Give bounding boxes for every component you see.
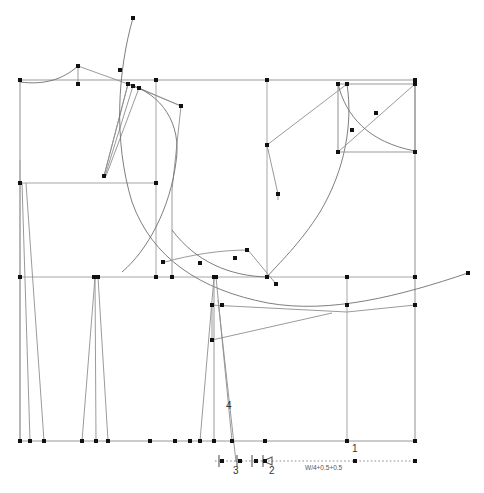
waist-dart-center — [200, 277, 236, 462]
label-1: 1 — [352, 443, 358, 454]
pattern-point — [96, 275, 100, 279]
pattern-point — [345, 303, 349, 307]
pattern-point — [265, 143, 269, 147]
pattern-point — [413, 303, 417, 307]
pattern-point — [80, 439, 84, 443]
label-2: 2 — [269, 465, 275, 476]
pattern-point — [413, 439, 417, 443]
pattern-point — [345, 439, 349, 443]
pattern-point — [263, 459, 267, 463]
pattern-point — [126, 82, 130, 86]
pattern-point — [76, 64, 80, 68]
pattern-point — [233, 256, 237, 260]
pattern-point — [210, 338, 214, 342]
pattern-point — [28, 439, 32, 443]
shoulder-line-right — [267, 84, 347, 145]
waist-dart-left-2 — [82, 277, 108, 441]
pattern-point — [336, 82, 340, 86]
pattern-point — [170, 275, 174, 279]
pattern-point — [154, 275, 158, 279]
pattern-point — [345, 82, 349, 86]
frame-group — [20, 80, 415, 441]
pattern-point — [336, 150, 340, 154]
pattern-point — [118, 68, 122, 72]
pattern-point — [198, 261, 202, 265]
pattern-point — [413, 150, 417, 154]
pattern-point — [353, 459, 357, 463]
pattern-point — [198, 439, 202, 443]
pattern-point — [154, 78, 158, 82]
pattern-point — [173, 439, 177, 443]
pattern-draft-svg: 1 2 3 4 W/4+0.5+0.5 — [0, 0, 484, 493]
pattern-point — [350, 128, 354, 132]
armhole-curve-back — [267, 84, 349, 277]
pattern-point — [413, 275, 417, 279]
shoulder-dart-leg-c — [106, 88, 139, 176]
sleeve-box-diagonal — [338, 84, 415, 152]
pattern-point — [230, 439, 234, 443]
neck-right-line — [267, 145, 278, 194]
pattern-point — [76, 82, 80, 86]
pattern-point — [210, 303, 214, 307]
pattern-point — [212, 439, 216, 443]
pattern-point — [92, 275, 96, 279]
pattern-point — [18, 439, 22, 443]
inner-detail-line — [248, 250, 276, 284]
dimension-label: W/4+0.5+0.5 — [305, 464, 343, 471]
pattern-point — [413, 459, 417, 463]
pattern-point — [102, 174, 106, 178]
sleeve-box-group — [338, 84, 415, 152]
pattern-point — [161, 260, 165, 264]
pattern-point — [18, 78, 22, 82]
pattern-point — [220, 459, 224, 463]
pattern-point — [263, 439, 267, 443]
pattern-point — [265, 78, 269, 82]
pattern-point — [466, 271, 470, 275]
pattern-point — [94, 439, 98, 443]
pattern-draft-canvas: 1 2 3 4 W/4+0.5+0.5 — [0, 0, 484, 493]
pattern-point — [238, 459, 242, 463]
dart-apex-line — [104, 84, 128, 176]
pattern-point — [179, 104, 183, 108]
pattern-point — [245, 248, 249, 252]
pattern-point — [413, 82, 417, 86]
pattern-point — [131, 16, 135, 20]
pattern-point — [18, 181, 22, 185]
hip-line-lower — [212, 313, 332, 340]
label-3: 3 — [233, 465, 239, 476]
shoulder-dart-leg-b — [105, 86, 133, 176]
neckline-shoulder-group — [20, 66, 181, 190]
pattern-point — [374, 111, 378, 115]
pattern-point — [131, 84, 135, 88]
pattern-point — [188, 439, 192, 443]
label-4: 4 — [226, 400, 232, 411]
pattern-point — [276, 192, 280, 196]
pattern-point — [254, 459, 258, 463]
pattern-point — [214, 275, 218, 279]
waist-dart-left-1 — [22, 183, 44, 441]
pattern-point — [106, 439, 110, 443]
waist-darts-group — [22, 183, 415, 462]
pattern-point — [148, 439, 152, 443]
pattern-point — [220, 303, 224, 307]
pattern-point — [154, 181, 158, 185]
pattern-point — [265, 275, 269, 279]
pattern-point — [42, 439, 46, 443]
pattern-point — [413, 78, 417, 82]
pattern-point — [345, 275, 349, 279]
pattern-point — [18, 275, 22, 279]
pattern-point — [274, 282, 278, 286]
pattern-point — [137, 86, 141, 90]
frame-rectangle — [20, 80, 415, 441]
inner-sweep-curve — [172, 230, 267, 277]
